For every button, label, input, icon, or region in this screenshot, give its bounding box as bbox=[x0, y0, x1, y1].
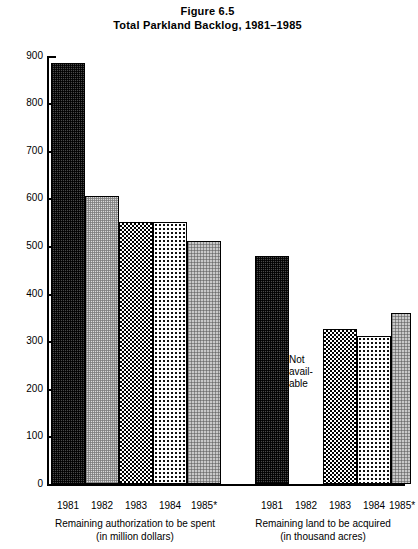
x-axis-line bbox=[47, 484, 405, 486]
xtick-group1-1982: 1982 bbox=[85, 500, 119, 512]
bar-group2-1985[interactable] bbox=[391, 313, 411, 484]
not-available-line-1: Not bbox=[289, 354, 323, 366]
xtick-group1-1985: 1985* bbox=[187, 500, 221, 512]
bar-group1-1984[interactable] bbox=[153, 222, 187, 484]
bar-group1-1982[interactable] bbox=[85, 196, 119, 484]
xtick-group1-1983: 1983 bbox=[119, 500, 153, 512]
not-available-line-3: able bbox=[289, 378, 323, 390]
xtick-group2-1985: 1985* bbox=[389, 500, 415, 512]
y-tick-0 bbox=[47, 484, 56, 486]
group1-caption-line-1: Remaining authorization to be spent bbox=[20, 517, 250, 530]
bar-group2-1984[interactable] bbox=[357, 336, 391, 484]
xtick-group2-1983: 1983 bbox=[323, 500, 357, 512]
bar-group2-1981[interactable] bbox=[255, 256, 289, 484]
xtick-group2-1984: 1984 bbox=[357, 500, 391, 512]
xtick-group1-1981: 1981 bbox=[51, 500, 85, 512]
group2-caption-line-2: (in thousand acres) bbox=[228, 530, 418, 543]
not-available-note: Not avail- able bbox=[289, 354, 323, 390]
not-available-line-2: avail- bbox=[289, 366, 323, 378]
group2-caption-line-1: Remaining land to be acquired bbox=[228, 517, 418, 530]
group1-caption-line-2: (in million dollars) bbox=[20, 530, 250, 543]
bar-group1-1983[interactable] bbox=[119, 222, 153, 485]
group1-caption: Remaining authorization to be spent (in … bbox=[20, 517, 250, 543]
bars-layer bbox=[0, 0, 415, 484]
bar-group1-1985[interactable] bbox=[187, 241, 221, 484]
bar-group2-1983[interactable] bbox=[323, 329, 357, 484]
bar-group1-1981[interactable] bbox=[51, 63, 85, 484]
xtick-group1-1984: 1984 bbox=[153, 500, 187, 512]
group2-caption: Remaining land to be acquired (in thousa… bbox=[228, 517, 418, 543]
xtick-group2-1982: 1982 bbox=[289, 500, 323, 512]
xtick-group2-1981: 1981 bbox=[255, 500, 289, 512]
